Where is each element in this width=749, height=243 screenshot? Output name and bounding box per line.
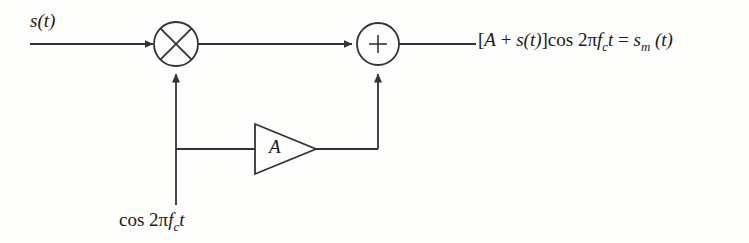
output-result-subscript: m	[641, 39, 650, 54]
carrier-cos-prefix: cos 2π	[119, 209, 168, 230]
output-equals-operator: =	[618, 29, 629, 50]
output-two-pi: 2π	[578, 29, 597, 50]
carrier-signal-label: cos 2πfct	[119, 209, 184, 235]
output-gain-term: A	[484, 29, 496, 50]
amplifier-gain-label: A	[269, 136, 281, 158]
output-cos-operator: cos	[548, 29, 573, 50]
input-signal-argument: (t)	[37, 10, 55, 31]
output-result-variable: s	[634, 29, 641, 50]
block-diagram-canvas: s(t) A cos 2πfct [A + s(t)]cos 2πfct = s…	[0, 0, 749, 243]
input-signal-label: s(t)	[30, 10, 55, 32]
output-result-argument: (t)	[655, 29, 673, 50]
carrier-time-variable: t	[179, 209, 184, 230]
output-time-variable: t	[608, 29, 613, 50]
output-signal-variable: s	[516, 29, 523, 50]
amplifier-triangle	[255, 124, 316, 174]
output-signal-argument: (t)	[524, 29, 542, 50]
output-equation-label: [A + s(t)]cos 2πfct = sm (t)	[478, 29, 673, 55]
output-plus-operator: +	[501, 29, 512, 50]
